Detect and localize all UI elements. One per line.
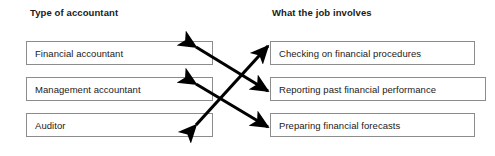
option-label: Financial accountant xyxy=(27,48,123,59)
option-box-preparing-forecasts[interactable]: Preparing financial forecasts xyxy=(270,113,475,137)
column-header-right: What the job involves xyxy=(272,7,372,18)
option-box-checking-procedures[interactable]: Checking on financial procedures xyxy=(270,41,475,65)
matching-diagram: Type of accountant What the job involves… xyxy=(0,0,495,156)
option-label: Reporting past financial performance xyxy=(271,84,436,95)
option-label: Preparing financial forecasts xyxy=(271,120,400,131)
option-label: Auditor xyxy=(27,120,65,131)
option-box-financial-accountant[interactable]: Financial accountant xyxy=(26,41,213,65)
option-label: Checking on financial procedures xyxy=(271,48,421,59)
column-header-left: Type of accountant xyxy=(30,7,118,18)
option-label: Management accountant xyxy=(27,84,141,95)
option-box-auditor[interactable]: Auditor xyxy=(26,113,213,137)
option-box-reporting-performance[interactable]: Reporting past financial performance xyxy=(270,77,486,101)
option-box-management-accountant[interactable]: Management accountant xyxy=(26,77,213,101)
